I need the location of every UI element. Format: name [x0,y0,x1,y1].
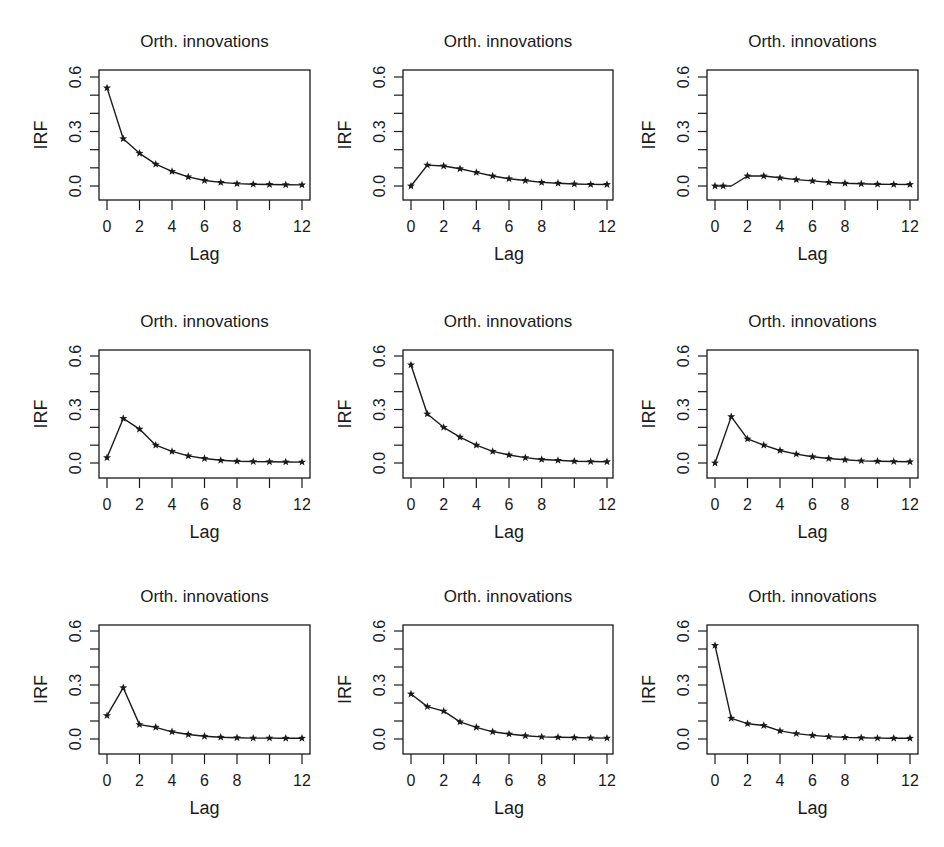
x-tick-label: 4 [168,218,177,235]
star-marker-icon [809,731,817,739]
panel-title: Orth. innovations [444,312,573,331]
star-marker-icon [874,180,882,188]
irf-panel-5: Orth. innovations0.00.30.6IRF0246812Lag [335,312,616,542]
star-marker-icon [489,447,497,455]
irf-panel-7: Orth. innovations0.00.30.6IRF0246812Lag [31,587,311,818]
star-marker-icon [760,441,768,449]
y-tick-label: 0.6 [675,345,692,367]
star-marker-icon [119,684,127,692]
star-marker-icon [538,733,546,741]
x-axis: 0246812 [103,478,311,513]
star-marker-icon [233,734,241,742]
star-marker-icon [603,734,611,742]
star-marker-icon [266,458,274,466]
y-axis: 0.00.30.6 [371,620,403,750]
star-marker-icon [489,728,497,736]
star-marker-icon [857,734,865,742]
star-marker-icon [472,441,480,449]
star-marker-icon [136,720,144,728]
star-marker-icon [874,734,882,742]
star-marker-icon [423,702,431,710]
star-markers [711,172,914,190]
star-marker-icon [266,180,274,188]
x-tick-label: 2 [743,218,752,235]
y-axis: 0.00.30.6 [67,620,99,750]
star-marker-icon [266,734,274,742]
x-tick-label: 12 [901,496,919,513]
star-marker-icon [217,733,225,741]
y-tick-label: 0.3 [67,674,84,696]
x-axis: 0246812 [407,200,616,235]
y-axis-label: IRF [335,675,355,704]
x-tick-label: 8 [537,496,546,513]
y-axis-label: IRF [31,121,51,150]
x-tick-label: 2 [135,772,144,789]
star-marker-icon [857,457,865,465]
x-tick-label: 4 [168,496,177,513]
y-tick-label: 0.3 [675,120,692,142]
star-marker-icon [201,454,209,462]
star-marker-icon [906,458,914,466]
y-tick-label: 0.0 [675,452,692,474]
x-tick-label: 2 [743,772,752,789]
x-tick-label: 2 [135,496,144,513]
star-marker-icon [776,446,784,454]
star-marker-icon [776,727,784,735]
star-markers [711,641,914,741]
star-marker-icon [825,732,833,740]
star-marker-icon [184,730,192,738]
star-marker-icon [184,452,192,460]
star-marker-icon [538,455,546,463]
y-axis-label: IRF [31,675,51,704]
x-axis-label: Lag [189,798,219,818]
star-marker-icon [521,176,529,184]
star-marker-icon [282,181,290,189]
y-tick-label: 0.3 [675,398,692,420]
star-markers [103,414,306,465]
star-marker-icon [554,179,562,187]
x-axis-label: Lag [797,244,827,264]
x-axis: 0246812 [711,200,919,235]
star-marker-icon [570,457,578,465]
x-tick-label: 2 [439,772,448,789]
x-tick-label: 2 [439,218,448,235]
star-marker-icon [841,179,849,187]
star-marker-icon [570,180,578,188]
y-tick-label: 0.0 [67,452,84,474]
irf-line [411,365,607,462]
star-markers [103,84,306,189]
x-axis-label: Lag [494,798,524,818]
star-marker-icon [103,711,111,719]
x-tick-label: 6 [505,496,514,513]
x-axis: 0246812 [103,754,311,789]
star-marker-icon [570,733,578,741]
star-marker-icon [744,720,752,728]
star-marker-icon [298,181,306,189]
y-tick-label: 0.6 [371,620,388,642]
x-axis-label: Lag [797,522,827,542]
plot-frame [403,350,613,478]
star-marker-icon [727,714,735,722]
y-tick-label: 0.3 [675,674,692,696]
panel-title: Orth. innovations [444,587,573,606]
x-axis: 0246812 [711,754,919,789]
star-marker-icon [587,734,595,742]
panel-title: Orth. innovations [140,32,269,51]
star-marker-icon [809,177,817,185]
y-tick-label: 0.0 [371,175,388,197]
star-marker-icon [825,454,833,462]
x-tick-label: 4 [168,772,177,789]
x-tick-label: 8 [841,218,850,235]
y-axis: 0.00.30.6 [371,345,403,474]
star-marker-icon [184,173,192,181]
y-axis-label: IRF [639,400,659,429]
x-tick-label: 12 [293,772,311,789]
y-axis: 0.00.30.6 [675,345,707,474]
x-tick-label: 6 [505,772,514,789]
x-tick-label: 2 [743,496,752,513]
star-marker-icon [298,458,306,466]
star-marker-icon [456,718,464,726]
x-tick-label: 6 [808,772,817,789]
x-axis: 0246812 [103,200,311,235]
star-marker-icon [456,433,464,441]
